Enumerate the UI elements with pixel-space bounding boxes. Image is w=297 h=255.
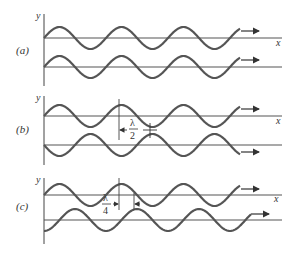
fraction-denominator: 4: [103, 205, 108, 216]
x-axis-label: x: [273, 193, 279, 204]
panel-label: (b): [16, 123, 29, 136]
y-axis-label: y: [35, 10, 41, 21]
x-axis-label: x: [275, 37, 281, 48]
panel-c: y (c) x λ 4: [16, 174, 282, 244]
fraction-denominator: 2: [130, 130, 135, 141]
panel-a: y (a) x: [16, 10, 282, 86]
fraction-numerator: λ: [103, 192, 108, 203]
wave-phase-diagram: y (a) x y (b) x λ 2 y (c) x: [0, 0, 297, 255]
y-axis-label: y: [35, 174, 41, 185]
y-axis-label: y: [35, 92, 41, 103]
panel-label: (c): [16, 200, 29, 213]
panel-label: (a): [16, 44, 29, 57]
x-axis-label: x: [275, 115, 281, 126]
fraction-numerator: λ: [130, 117, 135, 128]
panel-b: y (b) x λ 2: [16, 92, 282, 165]
